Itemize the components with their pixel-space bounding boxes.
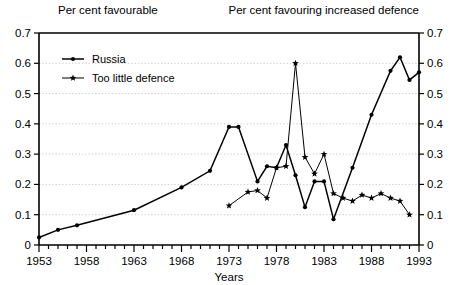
y-tick-label-left: 0.5: [15, 88, 31, 100]
legend-label: Russia: [92, 53, 127, 65]
x-tick-label: 1963: [121, 255, 147, 267]
data-point-marker-circle: [407, 78, 411, 82]
x-axis-title: Years: [215, 271, 244, 283]
y-tick-label-right: 0.3: [427, 148, 443, 160]
x-tick-label: 1978: [264, 255, 290, 267]
y-tick-label-left: 0.6: [15, 57, 31, 69]
y-tick-label-right: 0.2: [427, 178, 443, 190]
data-point-marker-star: [368, 195, 375, 201]
data-point-marker-circle: [417, 70, 421, 74]
data-point-marker-star: [349, 198, 356, 204]
legend-label: Too little defence: [92, 72, 175, 84]
data-point-marker-circle: [208, 169, 212, 173]
y-tick-label-left: 0: [25, 239, 31, 251]
data-point-marker-circle: [331, 217, 335, 221]
data-point-marker-circle: [388, 69, 392, 73]
data-point-marker-star: [226, 202, 233, 208]
data-point-marker-circle: [236, 125, 240, 129]
series-line: [39, 57, 419, 237]
x-tick-label: 1983: [311, 255, 337, 267]
data-point-marker-circle: [303, 205, 307, 209]
y-tick-label-right: 0.6: [427, 57, 443, 69]
header-left-label: Per cent favourable: [58, 4, 158, 16]
data-point-marker-circle: [255, 179, 259, 183]
x-tick-label: 1988: [359, 255, 385, 267]
x-tick-label: 1958: [74, 255, 100, 267]
legend-item-2: [62, 75, 84, 81]
y-tick-label-right: 0: [427, 239, 433, 251]
data-point-marker-star: [378, 190, 385, 196]
data-point-marker-circle: [56, 228, 60, 232]
data-point-marker-star: [302, 154, 309, 160]
data-point-marker-circle: [350, 166, 354, 170]
y-tick-label-left: 0.7: [15, 27, 31, 39]
data-point-marker-circle: [227, 125, 231, 129]
data-point-marker-circle: [322, 179, 326, 183]
data-point-marker-circle: [398, 55, 402, 59]
data-point-marker-star: [387, 195, 394, 201]
y-tick-label-right: 0.7: [427, 27, 443, 39]
data-point-marker-star: [330, 190, 337, 196]
data-point-marker-circle: [132, 208, 136, 212]
data-point-marker-star: [70, 75, 77, 81]
y-tick-label-left: 0.2: [15, 178, 31, 190]
x-tick-label: 1973: [216, 255, 242, 267]
y-tick-label-left: 0.4: [15, 118, 32, 130]
data-point-marker-circle: [37, 235, 41, 239]
y-tick-label-right: 0.5: [427, 88, 443, 100]
x-tick-label: 1968: [169, 255, 195, 267]
data-point-marker-star: [397, 198, 404, 204]
y-tick-label-left: 0.1: [15, 209, 31, 221]
data-point-marker-star: [283, 163, 290, 169]
data-point-marker-circle: [71, 57, 75, 61]
y-tick-label-right: 0.4: [427, 118, 444, 130]
header-right-label: Per cent favouring increased defence: [228, 4, 419, 16]
line-chart: Per cent favourablePer cent favouring in…: [0, 0, 456, 285]
x-tick-label: 1953: [26, 255, 52, 267]
data-point-marker-circle: [369, 113, 373, 117]
chart-container: Per cent favourablePer cent favouring in…: [0, 0, 456, 285]
data-point-marker-circle: [312, 179, 316, 183]
y-tick-label-right: 0.1: [427, 209, 443, 221]
data-point-marker-circle: [293, 173, 297, 177]
y-tick-label-left: 0.3: [15, 148, 31, 160]
legend-item-1: [62, 57, 84, 61]
data-point-marker-circle: [179, 185, 183, 189]
data-point-marker-circle: [75, 223, 79, 227]
data-point-marker-star: [311, 170, 318, 176]
data-point-marker-circle: [265, 164, 269, 168]
x-tick-label: 1993: [406, 255, 432, 267]
data-point-marker-star: [264, 195, 271, 201]
